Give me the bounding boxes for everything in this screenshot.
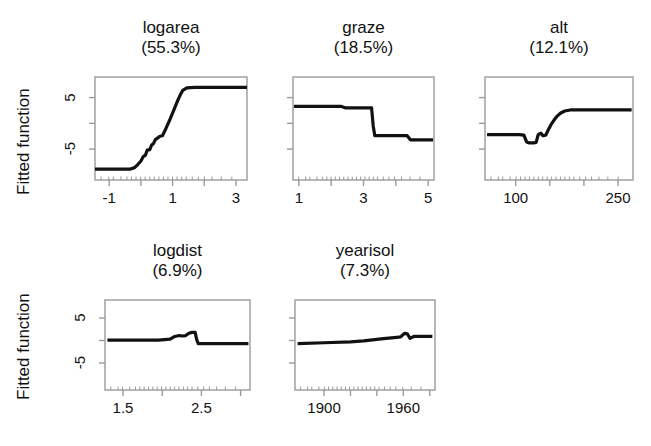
panel-title-graze: graze(18.5%) bbox=[293, 18, 434, 58]
plot-box-alt bbox=[485, 77, 633, 180]
x-tick-label-yearisol-3: 1960 bbox=[373, 399, 433, 416]
y-tick-label-logdist-1: 5 bbox=[71, 304, 88, 332]
x-tick-label-logarea-0: -1 bbox=[79, 189, 139, 206]
panel-contribution-graze: (18.5%) bbox=[293, 38, 434, 58]
panel-variable-name-yearisol: yearisol bbox=[295, 241, 435, 261]
y-axis-label-row1: Fitted function bbox=[14, 88, 34, 195]
plot-box-graze bbox=[293, 77, 434, 180]
panel-contribution-alt: (12.1%) bbox=[485, 38, 633, 58]
fitted-curve-logdist bbox=[107, 332, 248, 343]
panel-title-alt: alt(12.1%) bbox=[485, 18, 633, 58]
fitted-curve-graze bbox=[294, 106, 433, 139]
plot-box-yearisol bbox=[295, 300, 435, 390]
fitted-curve-yearisol bbox=[298, 333, 433, 343]
x-tick-label-logarea-4: 3 bbox=[206, 189, 266, 206]
x-tick-label-alt-0: 100 bbox=[486, 189, 546, 206]
x-tick-label-logarea-2: 1 bbox=[143, 189, 203, 206]
plot-area-yearisol bbox=[281, 286, 449, 404]
plot-area-alt bbox=[471, 63, 647, 194]
panel-contribution-logarea: (55.3%) bbox=[95, 38, 247, 58]
y-tick-label-logarea-0: -5 bbox=[61, 135, 78, 163]
plot-box-logarea bbox=[95, 77, 247, 180]
x-tick-label-logdist-2: 2.5 bbox=[171, 399, 231, 416]
y-tick-label-logarea-1: 5 bbox=[61, 83, 78, 111]
x-tick-label-graze-2: 3 bbox=[334, 189, 394, 206]
panel-variable-name-logarea: logarea bbox=[95, 18, 247, 38]
panel-contribution-logdist: (6.9%) bbox=[105, 261, 250, 281]
panel-variable-name-graze: graze bbox=[293, 18, 434, 38]
plot-area-graze bbox=[279, 63, 448, 194]
x-tick-label-alt-3: 250 bbox=[588, 189, 648, 206]
x-tick-label-graze-0: 1 bbox=[269, 189, 329, 206]
regression-panel-figure: Fitted functionFitted functionlogarea(55… bbox=[0, 0, 651, 446]
x-tick-label-yearisol-0: 1900 bbox=[294, 399, 354, 416]
y-axis-label-row2: Fitted function bbox=[14, 293, 34, 400]
x-tick-label-graze-4: 5 bbox=[398, 189, 458, 206]
plot-area-logdist bbox=[91, 286, 264, 404]
panel-title-yearisol: yearisol(7.3%) bbox=[295, 241, 435, 281]
x-tick-label-logdist-0: 1.5 bbox=[93, 399, 153, 416]
fitted-curve-logarea bbox=[95, 87, 247, 169]
panel-variable-name-alt: alt bbox=[485, 18, 633, 38]
panel-contribution-yearisol: (7.3%) bbox=[295, 261, 435, 281]
panel-title-logdist: logdist(6.9%) bbox=[105, 241, 250, 281]
plot-area-logarea bbox=[81, 63, 261, 194]
fitted-curve-alt bbox=[487, 110, 632, 143]
panel-title-logarea: logarea(55.3%) bbox=[95, 18, 247, 58]
y-tick-label-logdist-0: -5 bbox=[71, 349, 88, 377]
panel-variable-name-logdist: logdist bbox=[105, 241, 250, 261]
